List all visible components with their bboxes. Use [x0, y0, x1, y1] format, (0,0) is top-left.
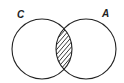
hatch-line: [81, 15, 124, 83]
hatch-line: [123, 15, 124, 83]
intersection-hatch: [0, 15, 124, 83]
hatch-line: [98, 15, 124, 83]
hatch-line: [0, 15, 40, 83]
hatch-line: [35, 15, 95, 83]
venn-diagram: C A: [0, 0, 124, 83]
hatch-line: [43, 15, 103, 83]
hatch-line: [119, 15, 124, 83]
hatch-line: [22, 15, 82, 83]
hatch-line: [18, 15, 78, 83]
set-a-label: A: [101, 8, 109, 19]
hatch-line: [1, 15, 61, 83]
hatch-line: [60, 15, 120, 83]
hatch-line: [106, 15, 124, 83]
set-c-label: C: [17, 9, 25, 20]
hatch-line: [0, 15, 44, 83]
hatch-line: [64, 15, 124, 83]
hatch-line: [39, 15, 99, 83]
hatch-line: [110, 15, 124, 83]
hatch-line: [93, 15, 124, 83]
hatch-line: [14, 15, 74, 83]
hatch-line: [0, 15, 53, 83]
hatch-line: [89, 15, 124, 83]
hatch-line: [0, 15, 57, 83]
hatch-line: [77, 15, 124, 83]
hatch-line: [56, 15, 116, 83]
set-c-circle: [12, 19, 72, 79]
